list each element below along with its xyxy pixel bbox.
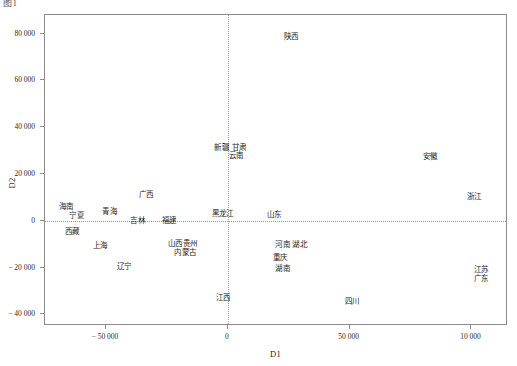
data-point-label: 湖南: [275, 263, 289, 272]
top-caption: 图1: [3, 0, 18, 9]
y-tick-label: 20 000: [14, 169, 35, 178]
x-axis-title: D1: [44, 349, 507, 359]
data-point-label: 四川: [345, 297, 359, 306]
y-tick-mark: [40, 33, 44, 34]
chart-canvas: 图1 陕西新疆甘肃云南安徽浙江广西海南青海宁夏吉林福建黑龙江山东西藏上海山西贵州…: [0, 0, 517, 366]
reference-line-vertical: [228, 15, 229, 324]
data-point-label: 山西: [168, 238, 182, 247]
x-tick-label: 50 000: [338, 332, 359, 341]
y-tick-label: 60 000: [14, 75, 35, 84]
reference-line-horizontal: [45, 221, 506, 222]
y-tick-mark: [40, 173, 44, 174]
data-point-label: 贵州: [183, 238, 197, 247]
data-point-label: 重庆: [273, 253, 287, 262]
data-point-label: 江苏: [474, 264, 488, 273]
x-tick-label: 0: [225, 332, 229, 341]
data-point-label: 广东: [474, 274, 488, 283]
y-tick-label: − 20 000: [8, 262, 35, 271]
plot-area: 陕西新疆甘肃云南安徽浙江广西海南青海宁夏吉林福建黑龙江山东西藏上海山西贵州内蒙古…: [44, 14, 507, 325]
y-tick-label: 80 000: [14, 28, 35, 37]
data-point-label: 云南: [229, 151, 243, 160]
x-tick-mark: [227, 325, 228, 329]
data-point-label: 湖北: [292, 240, 306, 249]
data-point-label: 西藏: [65, 227, 79, 236]
data-point-label: 辽宁: [117, 262, 131, 271]
y-tick-mark: [40, 126, 44, 127]
data-point-label: 安徽: [423, 152, 437, 161]
y-tick-label: − 40 000: [8, 309, 35, 318]
x-tick-label: − 50 000: [92, 332, 119, 341]
y-tick-mark: [40, 220, 44, 221]
x-tick-mark: [470, 325, 471, 329]
data-point-label: 江西: [216, 292, 230, 301]
data-point-label: 山东: [267, 209, 281, 218]
data-point-label: 吉林: [130, 215, 144, 224]
data-point-label: 广西: [139, 189, 153, 198]
y-axis-title: D2: [7, 177, 17, 188]
y-tick-label: 40 000: [14, 122, 35, 131]
data-point-label: 宁夏: [69, 210, 83, 219]
y-tick-mark: [40, 79, 44, 80]
x-tick-mark: [349, 325, 350, 329]
data-point-label: 陕西: [284, 32, 298, 41]
y-tick-mark: [40, 313, 44, 314]
y-tick-mark: [40, 267, 44, 268]
x-tick-mark: [105, 325, 106, 329]
data-point-label: 海南: [59, 201, 73, 210]
plot-inner: 陕西新疆甘肃云南安徽浙江广西海南青海宁夏吉林福建黑龙江山东西藏上海山西贵州内蒙古…: [45, 15, 506, 324]
x-tick-label: 10 000: [460, 332, 481, 341]
data-point-label: 青海: [102, 207, 116, 216]
data-point-label: 浙江: [467, 192, 481, 201]
data-point-label: 黑龙江: [212, 208, 234, 217]
data-point-label: 内蒙古: [174, 248, 196, 257]
data-point-label: 上海: [93, 241, 107, 250]
data-point-label: 新疆: [214, 143, 228, 152]
x-axis-ticks: − 50 000050 00010 000: [44, 325, 507, 345]
y-tick-label: 0: [31, 215, 35, 224]
data-point-label: 福建: [162, 215, 176, 224]
data-point-label: 河南: [275, 240, 289, 249]
